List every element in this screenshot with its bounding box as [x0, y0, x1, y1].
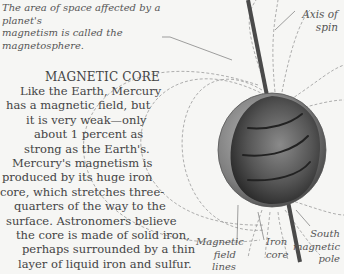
axis-of-spin-label: Axis of spin	[302, 8, 338, 34]
article-body: Like the Earth, Mercury has a magnetic f…	[0, 84, 178, 271]
section-title: MAGNETIC CORE	[0, 70, 160, 84]
magnetosphere-caption: The area of space affected by a planet's…	[2, 2, 202, 52]
magnetic-field-lines-label: Magnetic field lines	[196, 236, 236, 274]
south-magnetic-pole-label: South magnetic pole	[293, 228, 340, 266]
iron-core-label: Iron core	[266, 236, 290, 261]
